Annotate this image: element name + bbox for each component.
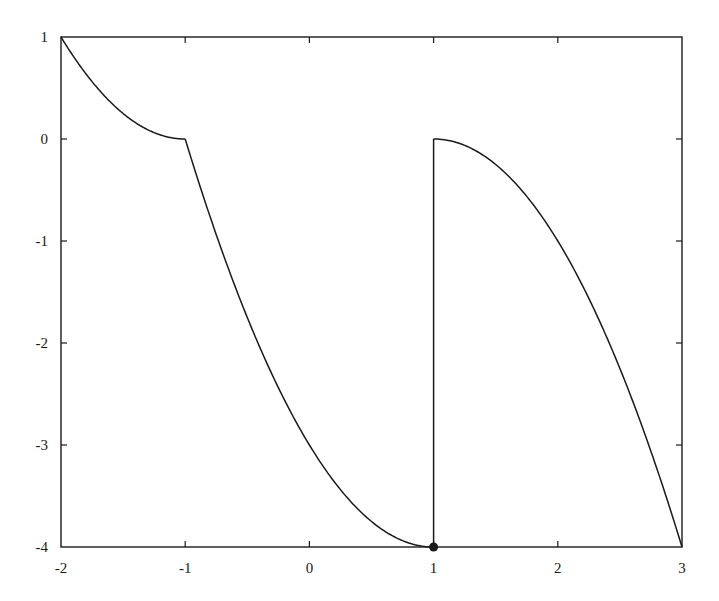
x-tick-label: 1 (430, 560, 438, 576)
x-tick-label: 2 (554, 560, 562, 576)
y-tick-label: -1 (36, 233, 49, 249)
y-tick-label: -3 (36, 437, 49, 453)
series-piece-2 (185, 139, 433, 547)
series-piece-3 (434, 139, 682, 547)
axis-ticks (61, 37, 682, 547)
chart: -2-10123 10-1-2-3-4 (0, 0, 719, 601)
y-tick-label: 0 (41, 131, 49, 147)
plot-frame (61, 37, 682, 547)
annotation-points (429, 543, 438, 552)
y-tick-label: -2 (36, 335, 49, 351)
filled-point-marker (429, 543, 438, 552)
plot-lines (61, 37, 682, 547)
series-piece-1 (61, 37, 185, 139)
x-tick-label: -1 (179, 560, 192, 576)
x-tick-label: 3 (678, 560, 686, 576)
x-tick-label: 0 (306, 560, 314, 576)
x-tick-label: -2 (55, 560, 68, 576)
y-axis-tick-labels: 10-1-2-3-4 (36, 29, 49, 555)
y-tick-label: 1 (41, 29, 49, 45)
y-tick-label: -4 (36, 539, 49, 555)
x-axis-tick-labels: -2-10123 (55, 560, 686, 576)
